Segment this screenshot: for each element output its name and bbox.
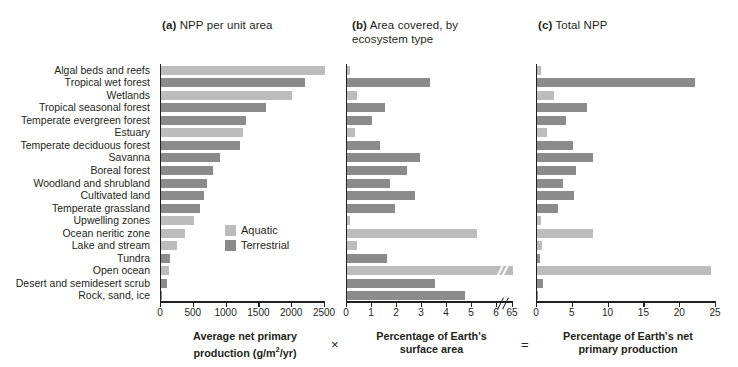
category-label: Tundra <box>0 252 155 265</box>
axis-tick-label: 0 <box>533 307 539 318</box>
panel-b-title-text: Area covered, by ecosystem type <box>352 19 458 45</box>
bar-row <box>161 102 325 115</box>
bar-aquatic <box>347 128 355 137</box>
axis-tick-label: 0 <box>343 307 349 318</box>
bar-terrestrial <box>347 279 435 288</box>
bar-row <box>537 239 716 252</box>
bar-row <box>537 77 716 90</box>
panel-c-axis-title-line1: Percentage of Earth's net <box>563 330 693 342</box>
bar-row <box>537 277 716 290</box>
bar-row <box>161 89 325 102</box>
axis-tick-label: 20 <box>674 307 685 318</box>
bar-aquatic <box>347 66 350 75</box>
category-label: Rock, sand, ice <box>0 290 155 303</box>
axis-tick-label: 15 <box>638 307 649 318</box>
bar-row <box>347 89 513 102</box>
bar-row <box>161 265 325 278</box>
x-axis-break-icon <box>497 297 511 310</box>
bar-terrestrial <box>537 204 558 213</box>
bar-aquatic <box>161 66 325 75</box>
bar-row <box>347 227 513 240</box>
bar-terrestrial <box>161 78 305 87</box>
bar-terrestrial <box>161 153 220 162</box>
panel-a-plot: 05001000150020002500 <box>160 64 325 302</box>
category-label: Estuary <box>0 127 155 140</box>
axis-tick <box>226 302 227 307</box>
bar-terrestrial <box>347 78 430 87</box>
category-label: Tropical wet forest <box>0 77 155 90</box>
panel-c-title-text: Total NPP <box>555 19 607 31</box>
category-label: Algal beds and reefs <box>0 64 155 77</box>
bar-aquatic <box>347 241 357 250</box>
axis-tick <box>471 302 472 307</box>
axis-tick <box>193 302 194 307</box>
panel-a-bars <box>161 64 325 302</box>
axis-tick <box>396 302 397 307</box>
axis-tick <box>421 302 422 307</box>
axis-tick-label: 1000 <box>214 307 236 318</box>
axis-tick <box>608 302 609 307</box>
bar-terrestrial <box>161 166 213 175</box>
category-label: Temperate grassland <box>0 202 155 215</box>
bar-row <box>161 77 325 90</box>
panel-c-axis-title-line2: primary production <box>579 343 678 355</box>
bar-row <box>347 114 513 127</box>
bar-row <box>347 139 513 152</box>
bar-terrestrial <box>537 103 587 112</box>
bar-aquatic <box>537 266 711 275</box>
axis-tick-label: 5 <box>468 307 474 318</box>
bar-aquatic <box>347 91 357 100</box>
category-label: Lake and stream <box>0 239 155 252</box>
bar-terrestrial <box>537 191 574 200</box>
npp-figure: (a) NPP per unit area (b) Area covered, … <box>0 0 738 367</box>
bar-row <box>161 64 325 77</box>
bar-terrestrial <box>161 204 200 213</box>
bar-aquatic <box>347 216 350 225</box>
axis-tick <box>291 302 292 307</box>
bar-terrestrial <box>347 166 407 175</box>
panel-a-axis-title-line1: Average net primary <box>193 330 297 342</box>
panel-a-axis-title-line2-pre: production (g/m <box>193 347 275 359</box>
bar-row <box>537 189 716 202</box>
bar-row <box>537 252 716 265</box>
bar-aquatic <box>537 216 541 225</box>
bar-row <box>347 239 513 252</box>
bar-row <box>347 102 513 115</box>
bar-aquatic <box>537 91 554 100</box>
bar-aquatic <box>161 229 185 238</box>
bar-row <box>537 177 716 190</box>
equals-operator: = <box>521 337 529 352</box>
category-label: Temperate deciduous forest <box>0 139 155 152</box>
bar-terrestrial <box>537 279 543 288</box>
bar-aquatic <box>161 91 292 100</box>
bar-terrestrial <box>537 153 593 162</box>
bar-terrestrial <box>347 204 395 213</box>
category-label: Desert and semidesert scrub <box>0 277 155 290</box>
bar-aquatic <box>537 241 542 250</box>
bar-row <box>347 202 513 215</box>
axis-tick <box>160 302 161 307</box>
axis-tick-label: 0 <box>157 307 163 318</box>
panel-c-tag: (c) <box>538 19 552 31</box>
bar-terrestrial <box>347 153 420 162</box>
bar-aquatic <box>347 266 513 275</box>
panel-c-axis-title: Percentage of Earth's net primary produc… <box>528 330 728 356</box>
legend-swatch-icon <box>225 225 236 236</box>
panel-c-title: (c) Total NPP <box>538 18 698 32</box>
axis-tick <box>572 302 573 307</box>
axis-tick-label: 1 <box>368 307 374 318</box>
bar-row <box>347 164 513 177</box>
category-label: Savanna <box>0 152 155 165</box>
bar-row <box>161 189 325 202</box>
axis-tick-label: 500 <box>184 307 201 318</box>
legend-label: Aquatic <box>241 224 278 236</box>
bar-terrestrial <box>161 116 246 125</box>
bar-row <box>161 277 325 290</box>
bar-row <box>537 139 716 152</box>
axis-tick <box>346 302 347 307</box>
axis-tick <box>679 302 680 307</box>
bar-terrestrial <box>347 179 390 188</box>
axis-tick <box>512 302 513 307</box>
bar-terrestrial <box>161 191 204 200</box>
bar-terrestrial <box>161 103 266 112</box>
